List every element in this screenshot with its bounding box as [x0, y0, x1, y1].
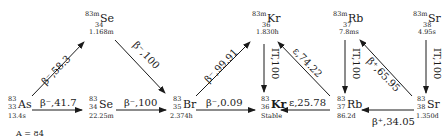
mass-number: 83m: [413, 11, 427, 18]
decay-label-rb83m-rb83: IT,100: [351, 48, 361, 79]
atomic-number: 33: [8, 104, 16, 111]
element-symbol: Kr: [271, 99, 286, 110]
half-life: 2.374h: [170, 113, 193, 120]
mass-number: 83: [337, 96, 345, 103]
atomic-number: 36: [261, 104, 269, 111]
mass-number: 83: [8, 96, 16, 103]
decay-label-rb-kr83: ε,25.78: [289, 98, 326, 108]
half-life: 4.95s: [418, 29, 436, 36]
mass-number: 83: [173, 96, 181, 103]
decay-label-as-se83: β⁻,41.7: [40, 98, 77, 108]
element-symbol: Rb: [347, 99, 362, 110]
decay-label-se83-br: β⁻,100: [124, 98, 157, 108]
half-life: 1.350d: [416, 113, 439, 120]
half-life: 86.2d: [337, 113, 356, 120]
half-life: 22.25m: [89, 113, 114, 120]
element-symbol: Se: [99, 99, 113, 110]
mass-number: 83m: [85, 11, 99, 18]
element-symbol: Sr: [427, 99, 440, 110]
half-life: 1.168m: [89, 29, 114, 36]
element-symbol: Br: [183, 99, 196, 110]
half-life: Stable: [261, 113, 282, 120]
atomic-number: 34: [89, 104, 97, 111]
footer-fragment: A = 84: [16, 129, 44, 136]
decay-label-sr83m-sr83: IT,100: [432, 48, 442, 79]
half-life: 13.4s: [8, 113, 26, 120]
atomic-number: 37: [337, 104, 345, 111]
decay-label-sr-rb83: β⁺,34.05: [372, 117, 415, 127]
mass-number: 83: [261, 96, 269, 103]
element-symbol: As: [18, 99, 32, 110]
decay-label-kr83m-kr83: IT,100: [270, 48, 280, 79]
mass-number: 83: [417, 96, 425, 103]
half-life: 1.830h: [256, 29, 279, 36]
atomic-number: 35: [173, 104, 181, 111]
atomic-number: 38: [417, 104, 425, 111]
mass-number: 83m: [333, 11, 347, 18]
mass-number: 83m: [252, 11, 266, 18]
arrow-sr-to-rb83m: [360, 40, 412, 96]
decay-label-br-kr83: β⁻,0.09: [206, 98, 243, 108]
mass-number: 83: [89, 96, 97, 103]
half-life: 7.8ms: [339, 29, 359, 36]
